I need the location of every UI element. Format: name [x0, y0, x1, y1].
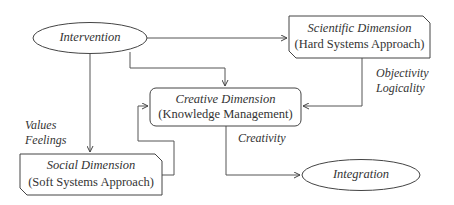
creative-node-title: Creative Dimension: [150, 92, 301, 107]
creative-node-subtitle: (Knowledge Management): [150, 107, 301, 122]
scientific-node-title: Scientific Dimension: [289, 21, 430, 36]
social-node-title: Social Dimension: [20, 158, 162, 173]
edge-label-feelings: Feelings: [25, 133, 66, 147]
edge-intervention-to-creative: [130, 52, 225, 86]
integration-node-label: Integration: [302, 167, 420, 182]
edge-scientific-to-creative: [303, 58, 362, 106]
edge-label-objectivity: Objectivity: [376, 66, 429, 80]
scientific-node-subtitle: (Hard Systems Approach): [289, 37, 430, 52]
social-node-subtitle: (Soft Systems Approach): [20, 175, 162, 190]
edge-label-creativity: Creativity: [238, 131, 286, 145]
intervention-node-label: Intervention: [33, 30, 147, 45]
edge-label-values: Values: [25, 118, 56, 132]
edge-label-logicality: Logicality: [376, 81, 425, 95]
